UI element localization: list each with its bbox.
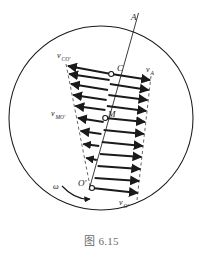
vector-subscript: CO′	[62, 56, 72, 62]
left-arrow	[81, 131, 102, 134]
right-arrow	[110, 84, 149, 90]
left-arrow	[86, 158, 97, 160]
point-label-O-prime: O′	[78, 178, 87, 188]
wheel-circle	[9, 26, 193, 210]
right-arrow	[100, 154, 141, 157]
left-arrow	[69, 74, 109, 80]
point-label-M: M	[107, 109, 116, 119]
vector-base-v: v	[51, 109, 55, 118]
figure-container: A C M O′ v CO′ v A v MO′ v O′ ω	[0, 0, 203, 232]
omega-label: ω	[53, 182, 59, 191]
right-arrow	[95, 178, 139, 181]
right-arrow	[111, 74, 150, 80]
point-label-C: C	[117, 63, 124, 73]
right-arrow	[98, 166, 141, 169]
vector-subscript: A	[150, 70, 155, 76]
vector-base-v: v	[146, 65, 150, 74]
right-envelope-dashed	[137, 76, 151, 200]
left-arrow	[73, 95, 106, 100]
vector-label-v-MO-prime: v MO′	[51, 109, 66, 120]
vector-label-v-CO-prime: v CO′	[57, 51, 71, 62]
point-label-A: A	[130, 12, 137, 22]
vector-label-v-O-prime: v O′	[119, 198, 129, 209]
vector-subscript: MO′	[55, 114, 67, 120]
figure-caption: 图 6.15	[0, 232, 203, 248]
point-marker-O-prime	[90, 186, 95, 191]
left-arrow	[75, 106, 105, 110]
left-arrow	[68, 66, 111, 74]
vector-base-v: v	[57, 51, 61, 60]
vector-subscript: O′	[124, 203, 130, 209]
left-arrow	[83, 144, 99, 146]
velocity-diagram: A C M O′ v CO′ v A v MO′ v O′ ω	[0, 0, 203, 232]
vector-base-v: v	[119, 198, 123, 207]
point-marker-M	[103, 116, 108, 121]
right-arrow	[104, 130, 144, 134]
left-arrow	[71, 84, 108, 90]
right-arrow	[102, 142, 143, 146]
vector-label-v-A: v A	[146, 65, 155, 76]
left-arrow-group	[68, 66, 111, 160]
left-envelope-dashed	[66, 64, 90, 186]
left-arrow	[78, 118, 104, 122]
right-arrow	[92, 188, 138, 193]
point-marker-C	[109, 72, 114, 77]
axis-line	[89, 13, 139, 190]
